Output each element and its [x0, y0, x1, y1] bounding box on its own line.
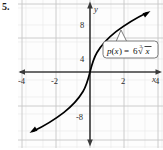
graph-plot-area: x y -4 -2 2 4 8 4 -8 p	[18, 0, 163, 148]
curve-left-arrow	[30, 127, 38, 134]
callout-argument: x	[114, 46, 119, 56]
callout-radical-sign: √	[138, 46, 143, 56]
x-axis-right-arrow	[156, 69, 163, 75]
y-axis-bottom-arrow	[87, 140, 93, 147]
y-axis-top-arrow	[87, 2, 93, 9]
callout-close-paren: )	[119, 46, 122, 56]
callout-equals-sign: =	[124, 46, 129, 56]
callout-box: p ( x ) = 6 3 √ x	[103, 41, 158, 58]
callout-radicand: x	[145, 46, 150, 56]
x-tick-label-neg2: -2	[51, 76, 58, 86]
exercise-figure: 5.	[0, 0, 163, 150]
y-tick-label-8: 8	[80, 20, 84, 30]
y-tick-label-neg8: -8	[76, 112, 83, 122]
x-tick-label-4: 4	[155, 76, 160, 86]
x-tick-label-neg4: -4	[18, 76, 26, 86]
graph-svg: x y -4 -2 2 4 8 4 -8 p	[18, 0, 163, 148]
y-axis-label: y	[93, 4, 98, 14]
problem-number: 5.	[2, 2, 10, 12]
x-tick-label-2: 2	[121, 76, 125, 86]
curve-right-arrow	[143, 11, 151, 18]
